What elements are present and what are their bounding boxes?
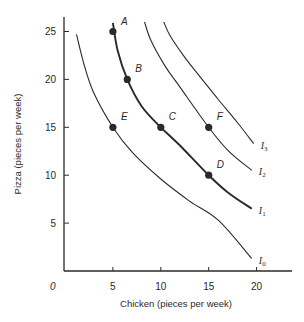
y-tick-label: 20 [45, 74, 57, 85]
point-d-marker [205, 172, 212, 179]
x-axis-title: Chicken (pieces per week) [120, 298, 232, 309]
curve-label-i1: I1 [258, 205, 266, 218]
x-tick-label: 20 [251, 281, 263, 292]
point-a-marker [109, 28, 116, 35]
point-e-label: E [121, 111, 128, 122]
point-c-marker [157, 124, 164, 131]
y-tick-label: 5 [50, 218, 56, 229]
x-tick-label: 15 [203, 281, 215, 292]
y-tick-label: 25 [45, 26, 57, 37]
point-b-label: B [135, 63, 142, 74]
origin-label: 0 [50, 281, 56, 292]
y-tick-label: 15 [45, 122, 57, 133]
indifference-curves [77, 22, 254, 259]
x-tick-label: 5 [110, 281, 116, 292]
curve-i1 [113, 23, 252, 209]
y-axis-title: Pizza (pieces per week) [12, 94, 23, 195]
point-f-marker [205, 124, 212, 131]
curve-labels: I0I1I2I3 [258, 140, 268, 268]
curve-label-i3: I3 [260, 140, 268, 153]
indifference-curve-chart: 5101520 510152025 0 Chicken (pieces per … [0, 0, 304, 322]
curve-i2 [145, 22, 252, 171]
point-b-marker [124, 76, 131, 83]
point-f-label: F [217, 111, 224, 122]
point-a-label: A [120, 16, 128, 27]
marked-points: ABCDEF [109, 16, 224, 179]
curve-label-i2: I2 [258, 166, 266, 179]
point-e-marker [109, 124, 116, 131]
curve-i0 [77, 34, 252, 258]
point-d-label: D [217, 159, 224, 170]
point-c-label: C [169, 111, 177, 122]
y-tick-label: 10 [45, 170, 57, 181]
x-tick-label: 10 [155, 281, 167, 292]
curve-label-i0: I0 [258, 255, 266, 268]
y-ticks: 510152025 [45, 26, 69, 229]
